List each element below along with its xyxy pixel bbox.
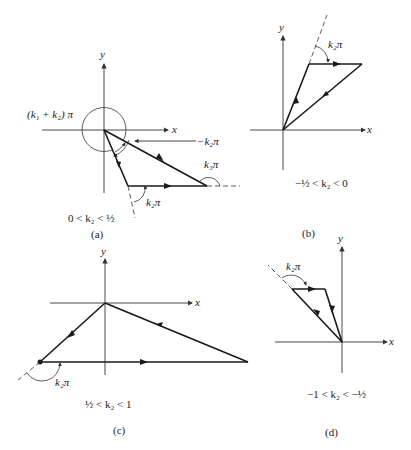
x-axis-label: x xyxy=(194,296,200,308)
x-axis-label: x xyxy=(171,123,177,135)
label-k3pi: k₃π xyxy=(204,158,219,170)
edge xyxy=(104,130,207,186)
angle-arc-k1k2-tail xyxy=(123,130,126,141)
panel-c: x y k₂π ½ < k₂ < 1 (c) xyxy=(18,245,248,437)
panel-a: x y −k₂π (k₁ + k₂) π k₃π k₂π 0 < k₂ < ½ … xyxy=(27,48,240,241)
panel-d: x y k₂π −1 < k₂ < −½ (d) xyxy=(268,232,394,439)
panel-b: x y k₂π −½ < k₂ < 0 (b) xyxy=(250,15,372,240)
dashed-extension xyxy=(128,186,135,218)
label-k1-plus-k2-pi: (k₁ + k₂) π xyxy=(27,108,73,121)
angle-arc-k2 xyxy=(282,275,306,285)
caption-b: (b) xyxy=(302,227,315,240)
direction-arrow xyxy=(164,183,172,189)
direction-arrow xyxy=(140,359,148,365)
condition-c: ½ < k₂ < 1 xyxy=(85,398,132,410)
label-k2pi: k₂π xyxy=(328,38,343,50)
caption-c: (c) xyxy=(113,424,126,437)
direction-arrow xyxy=(308,286,316,292)
caption-a: (a) xyxy=(91,228,104,241)
dashed-extension xyxy=(309,15,327,64)
x-axis-label: x xyxy=(366,123,372,135)
dashed-extension xyxy=(18,362,40,380)
edge xyxy=(292,289,342,342)
inner-arc-1 xyxy=(115,143,125,152)
edge xyxy=(105,303,248,362)
y-axis-label: y xyxy=(99,48,105,60)
caption-d: (d) xyxy=(325,426,338,439)
label-k2pi: k₂π xyxy=(55,376,70,388)
edge xyxy=(283,64,362,130)
label-k2pi: k₂π xyxy=(146,196,161,208)
condition-a: 0 < k₂ < ½ xyxy=(68,212,115,224)
angle-arc-k2 xyxy=(315,46,328,62)
label-minus-k2pi: −k₂π xyxy=(197,135,219,147)
root-locus-diagram: x y −k₂π (k₁ + k₂) π k₃π k₂π 0 < k₂ < ½ … xyxy=(0,0,411,450)
y-axis-label: y xyxy=(337,232,343,244)
y-axis-label: y xyxy=(278,21,284,33)
y-axis-label: y xyxy=(100,245,106,257)
label-k2pi: k₂π xyxy=(286,260,301,272)
angle-arc-k2 xyxy=(134,186,145,202)
direction-arrow xyxy=(333,61,341,67)
condition-d: −1 < k₂ < −½ xyxy=(307,388,366,400)
direction-arrow xyxy=(329,305,335,313)
direction-arrow xyxy=(293,96,299,104)
condition-b: −½ < k₂ < 0 xyxy=(295,177,348,189)
x-axis-label: x xyxy=(388,335,394,347)
